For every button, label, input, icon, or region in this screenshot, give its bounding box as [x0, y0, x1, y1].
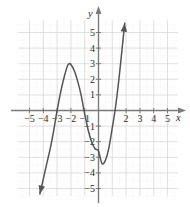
y-tick-label: −5: [84, 183, 95, 194]
x-tick-label: 4: [151, 113, 156, 124]
figure-background: [0, 0, 190, 207]
y-tick-label: −3: [84, 152, 95, 163]
x-tick-label: 2: [124, 113, 129, 124]
x-tick-label: −4: [38, 113, 49, 124]
graph-figure: −5−4−3−2−1234554321−1−2−3−4−5 x y: [0, 0, 190, 207]
y-tick-label: 2: [90, 74, 95, 85]
y-tick-label: 3: [90, 58, 95, 69]
x-tick-label: 5: [165, 113, 170, 124]
y-tick-label: −4: [84, 167, 95, 178]
x-tick-label: −5: [24, 113, 35, 124]
y-tick-label: 5: [90, 27, 95, 38]
x-tick-label: −2: [66, 113, 77, 124]
x-tick-label: 3: [137, 113, 142, 124]
y-axis-label: y: [87, 8, 93, 19]
y-tick-label: 1: [90, 89, 95, 100]
y-tick-label: 4: [90, 43, 95, 54]
coordinate-plane: −5−4−3−2−1234554321−1−2−3−4−5 x y: [0, 0, 190, 207]
x-axis-label: x: [175, 112, 181, 123]
